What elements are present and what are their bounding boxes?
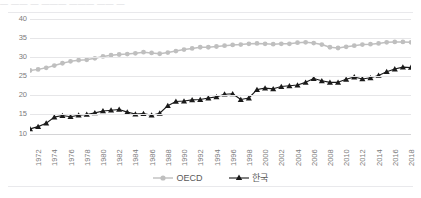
- data-point-oecd: [392, 40, 397, 45]
- x-axis-tick-label: 1992: [196, 149, 205, 166]
- x-axis-tick-label: 2004: [294, 149, 303, 166]
- x-axis-tick-label: 2000: [261, 149, 270, 166]
- x-axis-tick-label: 1998: [245, 149, 254, 166]
- data-point-oecd: [165, 50, 170, 55]
- chart-legend: OECD 한국: [0, 171, 421, 185]
- y-axis-tick-label: 10: [9, 130, 27, 138]
- data-point-oecd: [319, 42, 324, 47]
- data-point-oecd: [174, 49, 179, 54]
- data-point-oecd: [255, 41, 260, 46]
- data-point-oecd: [336, 46, 341, 51]
- top-bleed-label: — —— — ——— ——— —— —: [0, 0, 125, 8]
- data-point-oecd: [84, 57, 89, 62]
- x-axis-tick-label: 1982: [115, 149, 124, 166]
- data-point-korea: [35, 124, 41, 129]
- x-axis-tick-label: 2010: [342, 149, 351, 166]
- x-axis-tick-label: 2006: [310, 149, 319, 166]
- data-point-oecd: [182, 47, 187, 52]
- legend-label-oecd: OECD: [176, 173, 202, 183]
- x-axis-tick-label: 1978: [83, 149, 92, 166]
- data-point-oecd: [68, 59, 73, 64]
- data-point-oecd: [368, 42, 373, 47]
- gridline: [30, 57, 411, 58]
- data-point-oecd: [157, 51, 162, 56]
- gridline: [30, 114, 411, 115]
- x-axis-tick-label: 1976: [67, 149, 76, 166]
- x-axis-tick-label: 1990: [180, 149, 189, 166]
- data-point-oecd: [328, 45, 333, 50]
- data-point-oecd: [344, 44, 349, 49]
- data-point-oecd: [295, 40, 300, 45]
- x-axis-tick-label: 1996: [229, 149, 238, 166]
- y-axis-tick-label: 25: [9, 72, 27, 80]
- x-axis-tick-label: 1972: [34, 149, 43, 166]
- y-axis-tick-label: 20: [9, 91, 27, 99]
- data-point-oecd: [384, 40, 389, 45]
- data-point-korea: [303, 79, 309, 84]
- data-point-korea: [165, 103, 171, 108]
- data-point-oecd: [279, 41, 284, 46]
- data-point-oecd: [125, 52, 130, 57]
- gridline: [30, 76, 411, 77]
- data-point-oecd: [44, 65, 49, 70]
- y-axis-tick-label: 15: [9, 110, 27, 118]
- x-axis-tick-label: 2016: [391, 149, 400, 166]
- data-point-oecd: [214, 44, 219, 49]
- data-point-oecd: [36, 67, 41, 72]
- x-axis-tick-label: 1984: [131, 149, 140, 166]
- x-axis-labels: 1972197419761978198019821984198619881990…: [30, 136, 411, 170]
- x-axis-tick-label: 1988: [164, 149, 173, 166]
- gridline: [30, 95, 411, 96]
- data-point-oecd: [360, 42, 365, 47]
- data-point-oecd: [400, 40, 405, 45]
- data-point-oecd: [141, 50, 146, 55]
- top-divider: [8, 12, 413, 13]
- data-point-oecd: [198, 45, 203, 50]
- data-point-oecd: [376, 41, 381, 46]
- data-point-oecd: [222, 43, 227, 48]
- data-point-oecd: [246, 41, 251, 46]
- chart-figure: — —— — ——— ——— —— — 40353025201510 19721…: [0, 0, 421, 198]
- y-axis-tick-label: 30: [9, 53, 27, 61]
- legend-item-oecd[interactable]: OECD: [153, 173, 202, 183]
- gridline: [30, 38, 411, 39]
- data-point-oecd: [133, 51, 138, 56]
- x-axis-tick-label: 2018: [407, 149, 416, 166]
- data-point-oecd: [76, 58, 81, 63]
- top-bleed-text: — —— — ——— ——— —— —: [0, 0, 421, 9]
- x-axis-tick-label: 2002: [277, 149, 286, 166]
- data-point-oecd: [311, 41, 316, 46]
- gridline: [30, 19, 411, 20]
- data-point-oecd: [149, 51, 154, 56]
- y-axis-tick-label: 40: [9, 15, 27, 23]
- data-point-oecd: [206, 45, 211, 50]
- data-point-oecd: [303, 40, 308, 45]
- legend-label-korea: 한국: [252, 173, 268, 183]
- data-point-oecd: [60, 61, 65, 66]
- x-axis-tick-label: 2014: [375, 149, 384, 166]
- data-point-oecd: [352, 43, 357, 48]
- data-point-oecd: [30, 68, 32, 73]
- y-axis-tick-label: 35: [9, 34, 27, 42]
- bottom-divider: [8, 186, 413, 187]
- x-axis-line: [30, 134, 411, 135]
- legend-item-korea[interactable]: 한국: [229, 173, 268, 183]
- x-axis-tick-label: 2012: [358, 149, 367, 166]
- data-point-oecd: [263, 41, 268, 46]
- plot-area: 40353025201510: [30, 19, 411, 134]
- data-point-oecd: [409, 40, 411, 45]
- data-point-oecd: [287, 41, 292, 46]
- data-point-oecd: [190, 46, 195, 51]
- x-axis-tick-label: 1994: [213, 149, 222, 166]
- legend-key-oecd-circle-icon: [153, 173, 173, 183]
- data-point-oecd: [271, 42, 276, 47]
- data-point-oecd: [52, 63, 57, 68]
- x-axis-tick-label: 2008: [326, 149, 335, 166]
- data-point-oecd: [238, 42, 243, 47]
- data-point-oecd: [230, 43, 235, 48]
- x-axis-tick-label: 1980: [99, 149, 108, 166]
- legend-key-korea-triangle-icon: [229, 173, 249, 183]
- x-axis-tick-label: 1986: [148, 149, 157, 166]
- x-axis-tick-label: 1974: [50, 149, 59, 166]
